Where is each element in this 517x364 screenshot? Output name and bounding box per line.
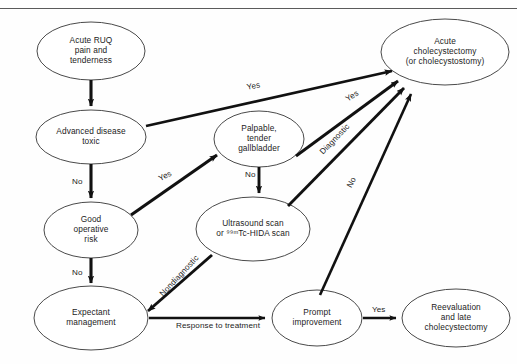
good-operative-risk-ellipse — [44, 202, 138, 258]
figure-canvas: Acute RUQ pain and tenderness Advanced d… — [0, 0, 517, 364]
palpable-tender-gallbladder-ellipse — [214, 111, 304, 167]
arrow-prompt-improvement-no-to-cholecystectomy — [320, 94, 411, 295]
reevaluation-late-cholecystectomy-ellipse — [402, 289, 510, 347]
prompt-improvement-ellipse — [272, 290, 362, 346]
edge-arrows — [91, 71, 411, 318]
flowchart-svg — [0, 0, 517, 364]
expectant-management-ellipse — [34, 286, 148, 350]
acute-ruq-pain-ellipse — [37, 22, 145, 80]
arrow-good-risk-yes-to-palpable — [131, 155, 217, 215]
acute-cholecystectomy-ellipse — [381, 19, 509, 85]
advanced-disease-ellipse — [36, 110, 146, 164]
ultrasound-scan-ellipse — [196, 197, 310, 261]
arrow-ultrasound-nondiagnostic-to-expectant — [148, 255, 212, 311]
node-shapes — [34, 19, 510, 350]
